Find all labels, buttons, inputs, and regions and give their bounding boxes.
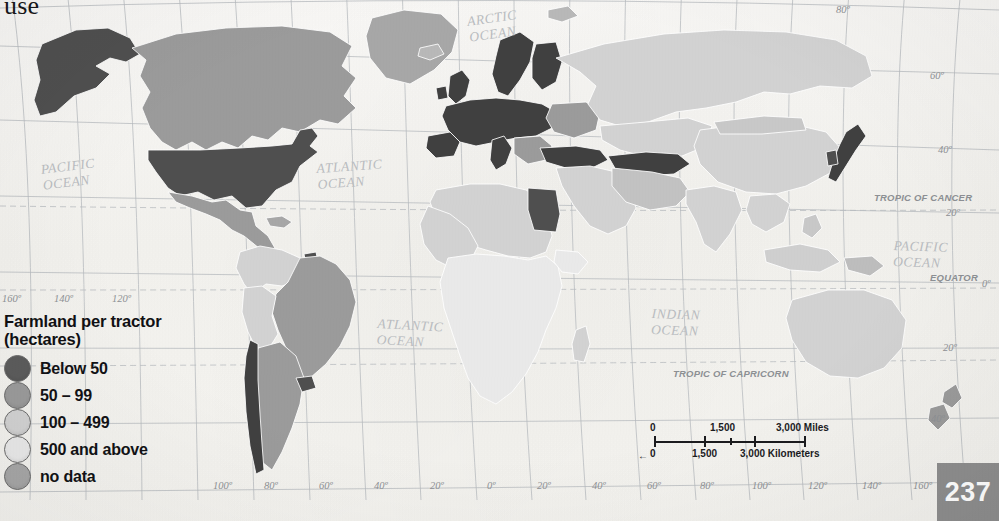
region-finland-baltics — [532, 42, 562, 90]
longitude-label: 60º — [647, 480, 662, 491]
ocean-label-pacific-east: PACIFIC OCEAN — [892, 238, 949, 271]
map-page: .ocean-lbl{font-family:"Liberation Serif… — [0, 0, 999, 521]
tropic-of-capricorn-label: TROPIC OF CAPRICORN — [673, 368, 790, 379]
scale-bar-arrow-icon: ← — [638, 450, 648, 461]
longitude-label: 60º — [319, 480, 334, 491]
legend-title: Farmland per tractor (hectares) — [4, 312, 214, 348]
scale-bar-tick-minor — [730, 438, 732, 445]
longitude-label: 140º — [54, 293, 74, 304]
region-russia — [556, 30, 872, 126]
region-greenland — [366, 10, 458, 84]
scale-tick-miles-0: 0 — [650, 422, 656, 433]
longitude-label: 120º — [808, 480, 828, 491]
legend-swatch-icon — [4, 436, 31, 463]
latitude-label: 40º — [931, 413, 946, 424]
legend-item-label: Below 50 — [40, 360, 108, 378]
longitude-label: 100º — [213, 480, 233, 491]
ocean-label-line1: PACIFIC — [892, 238, 948, 255]
longitude-label: 80º — [700, 480, 715, 491]
longitude-label: 40º — [374, 480, 389, 491]
latitude-label: 40º — [938, 144, 953, 155]
ocean-label-line2: OCEAN — [893, 254, 941, 271]
map-legend: Farmland per tractor (hectares) Below 50… — [4, 312, 214, 490]
longitude-label: 40º — [592, 480, 607, 491]
ocean-label-line2: OCEAN — [376, 332, 424, 349]
region-egypt — [528, 188, 560, 232]
legend-item-50-99[interactable]: 50 – 99 — [4, 382, 214, 409]
scale-bar-tick — [654, 436, 656, 447]
legend-item-below-50[interactable]: Below 50 — [4, 355, 214, 382]
longitude-label: 80º — [264, 480, 279, 491]
legend-title-line2: (hectares) — [4, 330, 214, 348]
latitude-label: 80º — [836, 4, 851, 15]
region-papua-new-guinea — [844, 256, 884, 276]
region-indonesia — [764, 244, 840, 272]
ocean-label-indian: INDIAN OCEAN — [650, 306, 701, 339]
region-southeast-asia — [746, 194, 790, 232]
legend-swatch-icon — [4, 409, 31, 436]
legend-item-no-data[interactable]: no data — [4, 463, 214, 490]
region-peru-bolivia — [242, 286, 278, 350]
legend-swatch-icon — [4, 463, 31, 490]
legend-item-label: 500 and above — [40, 441, 148, 459]
region-united-kingdom — [448, 70, 470, 104]
region-mongolia — [714, 116, 806, 134]
ocean-label-line2: OCEAN — [317, 174, 366, 192]
scale-tick-km-0: 0 — [650, 448, 656, 459]
legend-swatch-icon — [4, 355, 31, 382]
longitude-label: 100º — [752, 480, 772, 491]
region-india — [686, 186, 742, 252]
legend-item-label: no data — [40, 468, 96, 486]
scale-tick-km-3000: 3,000 Kilometers — [740, 448, 820, 459]
page-number: 237 — [945, 477, 992, 508]
legend-rows: Below 50 50 – 99 100 – 499 500 and above… — [4, 355, 214, 490]
latitude-label: 60º — [930, 70, 945, 81]
region-alaska — [34, 28, 140, 116]
scale-tick-km-1500: 1,500 — [692, 448, 717, 459]
region-arctic-islands — [548, 6, 578, 22]
legend-title-line1: Farmland per tractor — [4, 312, 161, 330]
legend-item-label: 100 – 499 — [40, 414, 109, 432]
longitude-label: 160º — [913, 480, 933, 491]
cropped-heading: use — [4, 0, 39, 21]
ocean-label-pacific-northeast: PACIFIC OCEAN — [39, 155, 98, 193]
legend-item-100-499[interactable]: 100 – 499 — [4, 409, 214, 436]
region-sub-saharan-africa — [440, 254, 562, 404]
region-madagascar — [572, 326, 590, 362]
ocean-label-atlantic-north: ATLANTIC OCEAN — [315, 156, 384, 192]
scale-bar-miles-ticks: 0 1,500 3,000 Miles — [648, 422, 848, 435]
region-australia — [786, 290, 906, 378]
region-philippines — [802, 214, 822, 238]
scale-tick-miles-1500: 1,500 — [710, 422, 735, 433]
scale-tick-miles-3000: 3,000 Miles — [776, 422, 829, 433]
scale-bar-tick — [754, 436, 756, 447]
scale-bar-tick — [704, 436, 706, 447]
legend-swatch-icon — [4, 382, 31, 409]
longitude-label: 140º — [862, 480, 882, 491]
region-italy — [490, 136, 512, 170]
ocean-label-line1: INDIAN — [650, 306, 700, 323]
latitude-label: 20º — [946, 207, 961, 218]
scale-bar-kilometers-ticks: ← 0 1,500 3,000 Kilometers — [648, 448, 848, 461]
region-canada — [132, 26, 356, 150]
longitude-label: 120º — [112, 293, 132, 304]
region-korea — [826, 150, 838, 166]
equator-label: EQUATOR — [930, 272, 978, 283]
ocean-label-atlantic-south: ATLANTIC OCEAN — [375, 316, 444, 350]
region-scandinavia — [492, 32, 534, 96]
map-scale-bar: 0 1,500 3,000 Miles ← 0 1,500 3,000 Kilo… — [648, 422, 848, 470]
region-turkey — [540, 146, 608, 168]
latitude-label: 0º — [982, 278, 991, 289]
longitude-label: 20º — [430, 480, 445, 491]
ocean-label-line1: ATLANTIC — [315, 156, 383, 176]
legend-item-500-and-above[interactable]: 500 and above — [4, 436, 214, 463]
latitude-label: 20º — [943, 342, 958, 353]
scale-bar-graphic — [648, 436, 848, 447]
scale-bar-tick — [804, 436, 806, 447]
region-china — [694, 124, 842, 194]
longitude-label: 160º — [2, 293, 22, 304]
region-caribbean — [266, 216, 292, 228]
page-number-chip: 237 — [937, 463, 999, 521]
region-ireland — [436, 86, 448, 100]
longitude-label: 0º — [487, 480, 496, 491]
